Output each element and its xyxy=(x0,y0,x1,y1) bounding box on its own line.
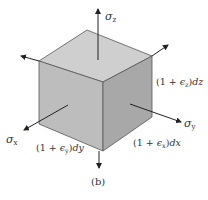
figure-caption: (b) xyxy=(91,176,105,187)
sigma-z-label: σz xyxy=(105,10,117,24)
sigma-x-back-arrow xyxy=(152,45,168,56)
dz-dimension-label: (1 + ϵz)dz xyxy=(156,76,204,89)
dx-dimension-label: (1 + ϵx)dx xyxy=(133,137,182,150)
sigma-x-label: σx xyxy=(6,133,18,147)
dy-dimension-label: (1 + ϵy)dy xyxy=(36,142,85,155)
deformed-cube xyxy=(39,30,152,151)
sigma-y-label: σy xyxy=(184,117,196,131)
sigma-y-back-arrow xyxy=(21,56,39,61)
stress-element-diagram: σz σx σy (1 + ϵz)dz (1 + ϵy)dy (1 + ϵx)d… xyxy=(0,0,208,200)
